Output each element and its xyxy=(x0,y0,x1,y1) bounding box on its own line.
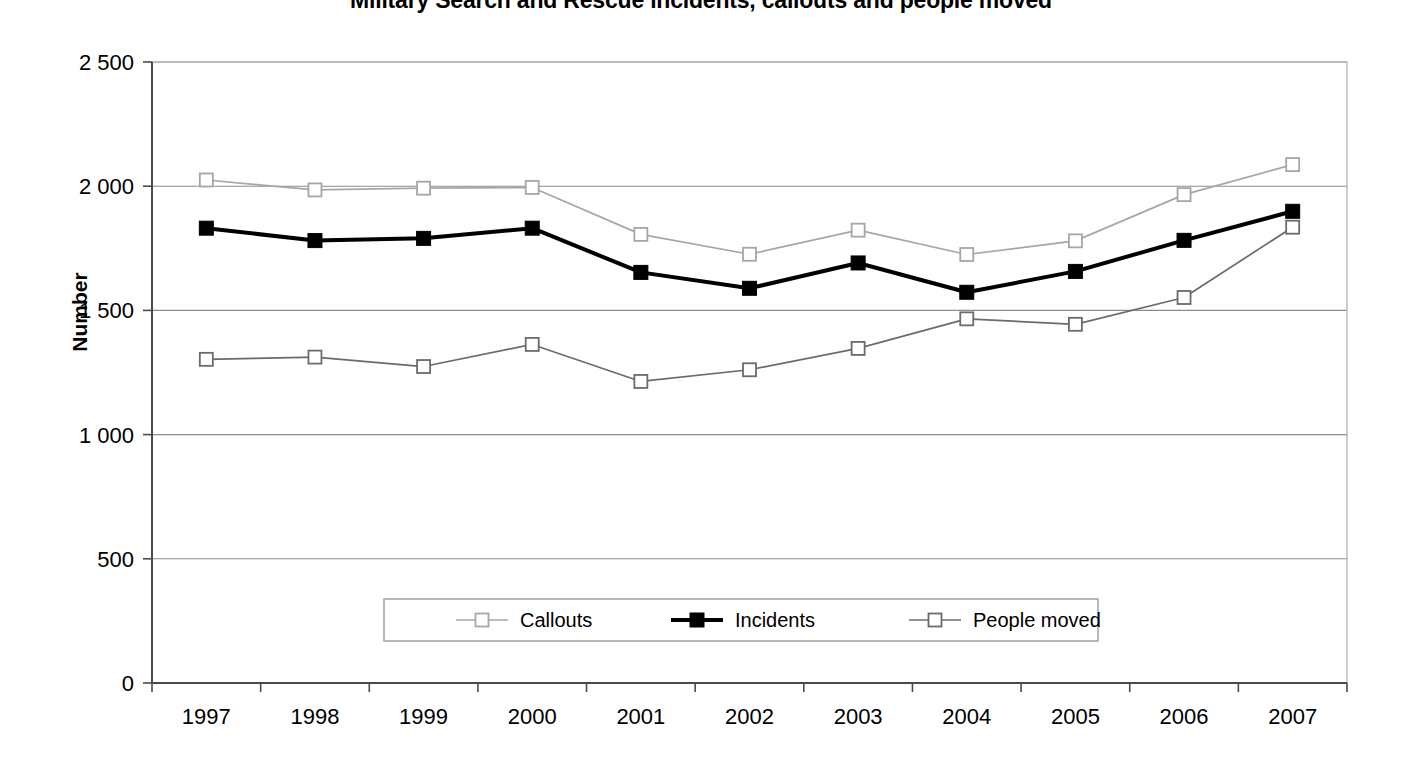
y-tick-label: 0 xyxy=(122,671,134,696)
data-point-marker xyxy=(743,248,756,261)
data-point-marker xyxy=(690,613,704,627)
data-point-marker xyxy=(851,256,865,270)
data-point-marker xyxy=(417,360,430,373)
data-series xyxy=(199,158,1299,388)
data-point-marker xyxy=(1178,291,1191,304)
data-point-marker xyxy=(960,248,973,261)
data-point-marker xyxy=(634,375,647,388)
x-tick-label: 2002 xyxy=(725,704,774,729)
data-point-marker xyxy=(526,181,539,194)
data-point-marker xyxy=(200,353,213,366)
data-point-marker xyxy=(960,312,973,325)
data-point-marker xyxy=(1068,264,1082,278)
y-tick-label: 500 xyxy=(97,547,134,572)
series-people-moved xyxy=(200,221,1299,388)
data-point-marker xyxy=(743,281,757,295)
data-point-marker xyxy=(960,285,974,299)
y-tick-label: 1 000 xyxy=(79,423,134,448)
data-point-marker xyxy=(308,234,322,248)
data-point-marker xyxy=(417,182,430,195)
data-point-marker xyxy=(1286,221,1299,234)
data-point-marker xyxy=(1069,234,1082,247)
series-callouts xyxy=(200,158,1299,261)
x-tick-label: 2007 xyxy=(1268,704,1317,729)
data-point-marker xyxy=(929,614,942,627)
data-point-marker xyxy=(308,183,321,196)
data-point-marker xyxy=(526,338,539,351)
data-point-marker xyxy=(1069,318,1082,331)
plot-area: 05001 0001 5002 0002 500 199719981999200… xyxy=(0,0,1402,770)
x-tick-label: 1997 xyxy=(182,704,231,729)
legend-label: Callouts xyxy=(520,609,592,631)
x-tick-label: 2006 xyxy=(1160,704,1209,729)
x-axis-ticks: 1997199819992000200120022003200420052006… xyxy=(152,683,1347,729)
chart-legend[interactable]: CalloutsIncidentsPeople moved xyxy=(384,599,1101,641)
gridlines xyxy=(152,62,1347,559)
data-point-marker xyxy=(1286,204,1300,218)
data-point-marker xyxy=(1286,158,1299,171)
data-point-marker xyxy=(743,363,756,376)
y-tick-label: 2 500 xyxy=(79,50,134,75)
data-point-marker xyxy=(199,221,213,235)
data-point-marker xyxy=(200,173,213,186)
data-point-marker xyxy=(1177,233,1191,247)
x-tick-label: 1999 xyxy=(399,704,448,729)
data-point-marker xyxy=(634,228,647,241)
data-point-marker xyxy=(525,221,539,235)
data-point-marker xyxy=(634,265,648,279)
y-tick-label: 2 000 xyxy=(79,174,134,199)
x-tick-label: 1998 xyxy=(290,704,339,729)
data-point-marker xyxy=(308,351,321,364)
data-point-marker xyxy=(852,342,865,355)
y-tick-label: 1 500 xyxy=(79,298,134,323)
data-point-marker xyxy=(1178,188,1191,201)
legend-label: People moved xyxy=(973,609,1101,631)
chart-container: Military Search and Rescue incidents, ca… xyxy=(0,0,1402,770)
x-tick-label: 2005 xyxy=(1051,704,1100,729)
x-tick-label: 2000 xyxy=(508,704,557,729)
legend-label: Incidents xyxy=(735,609,815,631)
data-point-marker xyxy=(476,614,489,627)
data-point-marker xyxy=(417,231,431,245)
x-tick-label: 2003 xyxy=(834,704,883,729)
data-point-marker xyxy=(852,224,865,237)
x-tick-label: 2001 xyxy=(616,704,665,729)
x-tick-label: 2004 xyxy=(942,704,991,729)
y-axis-ticks: 05001 0001 5002 0002 500 xyxy=(79,50,152,696)
